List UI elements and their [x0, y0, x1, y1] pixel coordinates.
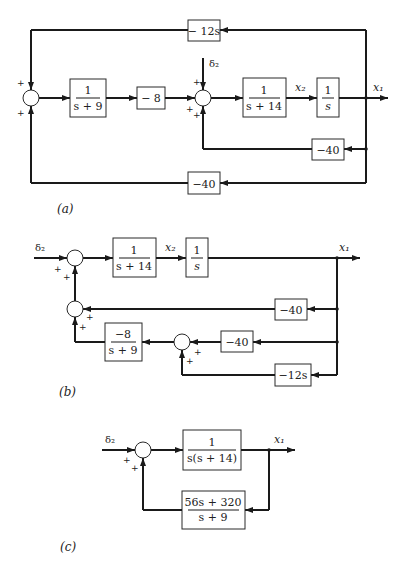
plus-sign: + — [63, 272, 71, 282]
plus-sign: + — [194, 347, 202, 357]
signal-x1-label: x₁ — [274, 433, 285, 446]
plus-sign: + — [123, 455, 131, 465]
block-label: −40 — [316, 144, 339, 157]
block-denominator: s + 9 — [109, 344, 138, 357]
block-label: − 12s — [188, 25, 221, 38]
block-denominator: s + 14 — [116, 260, 152, 273]
block-numerator: 56s + 320 — [185, 496, 242, 509]
plus-sign: + — [54, 264, 62, 274]
block-denominator: s + 9 — [74, 100, 103, 113]
block-numerator: 1 — [85, 84, 92, 97]
block-label: −40 — [225, 336, 248, 349]
input-delta2-label: δ₂ — [35, 242, 45, 253]
summing-junction-2 — [195, 90, 211, 106]
plus-sign: + — [193, 110, 201, 120]
block-numerator: 1 — [209, 436, 216, 449]
block-numerator: −8 — [115, 328, 131, 341]
input-delta2-label: δ₂ — [105, 434, 115, 445]
summing-junction-1 — [23, 90, 39, 106]
plus-sign: + — [17, 78, 25, 88]
block-label: −12s — [279, 369, 308, 382]
summing-junction-b1 — [67, 250, 83, 266]
caption-a: (a) — [57, 202, 74, 216]
plus-sign: + — [79, 322, 87, 332]
plus-sign: + — [186, 356, 194, 366]
block-numerator: 1 — [131, 244, 138, 257]
signal-x2-label: x₂ — [295, 81, 306, 94]
block-label: −40 — [192, 178, 215, 191]
block-label: − 8 — [141, 92, 161, 105]
signal-x2-label: x₂ — [165, 241, 176, 254]
block-denominator: s — [194, 260, 200, 273]
panel-b: δ₂ 1 s + 14 x₂ 1 s x₁ −40 − — [34, 238, 360, 399]
caption-c: (c) — [60, 540, 76, 554]
panel-c: δ₂ 1 s(s + 14) x₁ 56s + 320 s + 9 + + (c… — [60, 430, 295, 554]
block-diagram-figure: 1 s + 9 − 8 δ₂ 1 s + 14 x₂ 1 s x₁ — [0, 0, 402, 567]
block-numerator: 1 — [194, 244, 201, 257]
block-denominator: s + 9 — [199, 511, 228, 524]
block-numerator: 1 — [261, 84, 268, 97]
plus-sign: + — [193, 77, 201, 87]
block-label: −40 — [279, 304, 302, 317]
summing-junction-b3 — [174, 334, 190, 350]
plus-sign: + — [17, 108, 25, 118]
summing-junction-c — [135, 442, 151, 458]
summing-junction-b2 — [67, 301, 83, 317]
block-denominator: s + 14 — [246, 100, 282, 113]
block-denominator: s(s + 14) — [187, 452, 237, 465]
panel-a: 1 s + 9 − 8 δ₂ 1 s + 14 x₂ 1 s x₁ — [17, 20, 388, 216]
block-denominator: s — [325, 100, 331, 113]
plus-sign: + — [86, 312, 94, 322]
caption-b: (b) — [59, 385, 76, 399]
input-delta2-label: δ₂ — [209, 58, 219, 69]
signal-x1-label: x₁ — [339, 241, 350, 254]
block-numerator: 1 — [325, 84, 332, 97]
signal-x1-label: x₁ — [373, 81, 384, 94]
plus-sign: + — [131, 463, 139, 473]
